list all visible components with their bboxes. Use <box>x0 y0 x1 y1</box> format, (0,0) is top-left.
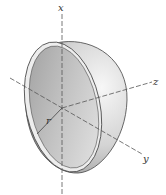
z-axis-label: z <box>152 76 159 87</box>
x-axis-label: x <box>58 2 64 13</box>
y-axis-label: y <box>142 153 149 164</box>
hemisphere-diagram: x z y r <box>0 0 166 195</box>
